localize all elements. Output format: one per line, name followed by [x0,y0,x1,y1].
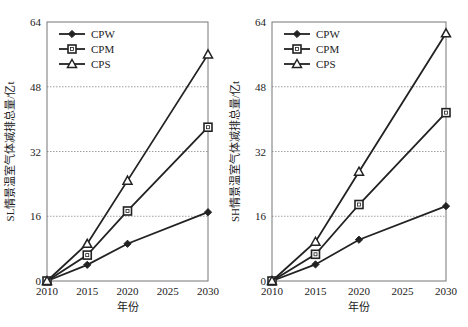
x-tick-label: 2015 [76,285,99,297]
x-axis-label: 年份 [117,300,139,313]
x-tick-label: 2030 [197,285,220,297]
series-cpw [268,203,449,285]
diamond-marker [124,240,131,247]
y-tick-label: 64 [255,16,267,28]
legend-label: CPW [316,28,340,40]
x-tick-label: 2025 [392,285,415,297]
diamond-marker [84,261,91,268]
y-axis-label: SH情景温室气体减排总量/亿t [228,81,241,222]
diamond-marker [293,30,300,37]
legend: CPWCPMCPS [59,28,115,70]
series-cps [43,50,213,285]
y-tick-label: 32 [30,146,41,158]
square-marker-inner [86,254,89,257]
y-tick-label: 32 [255,146,266,158]
square-marker-inner [296,48,299,51]
legend-label: CPW [91,28,115,40]
square-marker-inner [314,253,317,256]
square-marker-inner [445,111,448,114]
series-line [272,113,446,281]
x-tick-label: 2020 [117,285,140,297]
triangle-marker [204,50,213,58]
diamond-marker [442,203,449,210]
x-tick-label: 2010 [36,285,59,297]
diamond-marker [355,236,362,243]
square-marker-inner [358,203,361,206]
x-tick-label: 2010 [261,285,284,297]
triangle-marker [442,29,451,37]
triangle-marker [355,167,364,175]
y-tick-label: 64 [30,16,42,28]
square-marker-inner [71,48,74,51]
legend: CPWCPMCPS [284,28,340,70]
legend-label: CPM [91,43,114,55]
series-cpm [268,109,450,285]
y-axis-label: SL情景温室气体减排总量/亿t [3,82,16,222]
chart-sh: 01632486420102015202020252030年份SH情景温室气体减… [228,16,458,313]
x-tick-label: 2030 [435,285,458,297]
x-axis-label: 年份 [348,300,370,313]
square-marker-inner [207,126,210,129]
x-tick-label: 2020 [348,285,371,297]
triangle-marker [311,237,320,245]
legend-label: CPS [91,58,111,70]
y-tick-label: 48 [30,81,42,93]
diamond-marker [68,30,75,37]
diamond-marker [312,261,319,268]
square-marker-inner [126,209,129,212]
y-tick-label: 16 [30,210,42,222]
chart-canvas: 01632486420102015202020252030年份SL情景温室气体减… [0,0,468,327]
chart-sl: 01632486420102015202020252030年份SL情景温室气体减… [3,16,220,313]
y-tick-label: 48 [255,81,267,93]
x-tick-label: 2015 [305,285,328,297]
series-cpw [43,209,211,285]
legend-label: CPM [316,43,339,55]
x-tick-label: 2025 [157,285,180,297]
diamond-marker [204,209,211,216]
y-tick-label: 16 [255,210,267,222]
legend-label: CPS [316,58,336,70]
